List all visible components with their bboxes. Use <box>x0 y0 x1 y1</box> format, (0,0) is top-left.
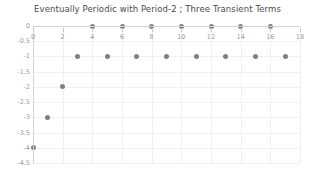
y-axis-tick-label: -4 <box>4 144 30 152</box>
y-axis-tick-label: -2 <box>4 83 30 91</box>
gridline-horizontal <box>33 102 300 103</box>
data-point <box>45 115 50 120</box>
gridline-vertical <box>270 26 271 163</box>
gridline-vertical <box>300 26 301 163</box>
y-axis-tick-labels: 0-0.5-1-1.5-2-2.5-3-3.5-4-4.5 <box>0 26 30 163</box>
x-axis-tick <box>211 28 212 32</box>
data-point <box>134 54 139 59</box>
x-axis-tick <box>300 28 301 32</box>
gridline-vertical <box>241 26 242 163</box>
x-axis-tick-label: 16 <box>260 33 280 41</box>
gridline-horizontal <box>33 148 300 149</box>
x-axis-tick-label: 4 <box>82 33 102 41</box>
x-axis-tick <box>181 28 182 32</box>
x-axis-tick <box>122 28 123 32</box>
y-axis-line <box>33 26 34 163</box>
x-axis-tick-label: 18 <box>290 33 310 41</box>
x-axis-tick-label: 2 <box>53 33 73 41</box>
x-axis-tick-label: 14 <box>231 33 251 41</box>
data-point <box>283 54 288 59</box>
gridline-vertical <box>63 26 64 163</box>
y-axis-tick-label: 0 <box>4 22 30 30</box>
gridline-vertical <box>122 26 123 163</box>
x-axis-tick-label: 8 <box>142 33 162 41</box>
gridline-horizontal <box>33 117 300 118</box>
y-axis-tick-label: -1.5 <box>4 68 30 76</box>
gridline-horizontal <box>33 87 300 88</box>
x-axis-tick <box>33 28 34 32</box>
data-point <box>194 54 199 59</box>
data-point <box>75 54 80 59</box>
x-axis-tick <box>152 28 153 32</box>
gridline-horizontal <box>33 133 300 134</box>
x-axis-tick <box>63 28 64 32</box>
gridline-horizontal <box>33 163 300 164</box>
y-axis-tick-label: -3 <box>4 113 30 121</box>
data-point <box>223 54 228 59</box>
data-point <box>253 54 258 59</box>
chart-title: Eventually Periodic with Period-2 ; Thre… <box>0 4 315 14</box>
x-axis-tick-label: 12 <box>201 33 221 41</box>
gridline-vertical <box>181 26 182 163</box>
data-point <box>105 54 110 59</box>
x-axis-tick <box>92 28 93 32</box>
chart-figure: Eventually Periodic with Period-2 ; Thre… <box>0 0 315 181</box>
data-point <box>164 54 169 59</box>
data-point <box>60 84 65 89</box>
x-axis-tick <box>241 28 242 32</box>
x-axis-tick-labels: 024681012141618 <box>33 28 300 42</box>
y-axis-tick-label: -2.5 <box>4 98 30 106</box>
gridline-horizontal <box>33 72 300 73</box>
y-axis-tick-label: -3.5 <box>4 129 30 137</box>
y-axis-tick-label: -4.5 <box>4 159 30 167</box>
y-axis-tick-label: -0.5 <box>4 37 30 45</box>
x-axis-tick-label: 10 <box>171 33 191 41</box>
x-axis-tick-label: 6 <box>112 33 132 41</box>
gridline-vertical <box>211 26 212 163</box>
gridline-vertical <box>92 26 93 163</box>
x-axis-line <box>33 26 300 27</box>
x-axis-tick <box>270 28 271 32</box>
plot-area <box>33 26 300 163</box>
y-axis-tick-label: -1 <box>4 52 30 60</box>
gridline-vertical <box>152 26 153 163</box>
